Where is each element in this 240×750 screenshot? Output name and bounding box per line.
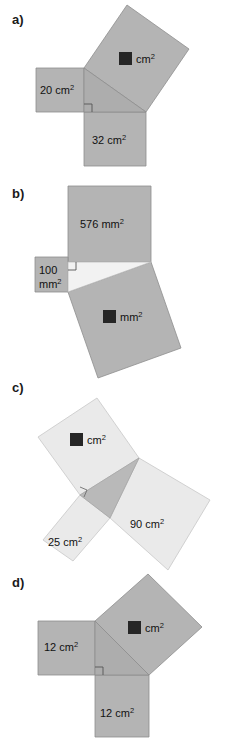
figure-b-unknown-box (103, 310, 116, 323)
figure-d: d) 12 cm2 12 cm2 cm2 (0, 565, 240, 750)
figure-b-diagram: 576 mm2 100 mm2 mm2 (0, 178, 240, 383)
figure-d-bottom-label: 12 cm2 (100, 706, 134, 719)
figure-d-diagram: 12 cm2 12 cm2 cm2 (0, 565, 240, 750)
figure-d-unknown-box (128, 621, 141, 634)
figure-b-top-label: 576 mm2 (80, 217, 124, 230)
figure-c-unknown-box (70, 433, 83, 446)
figure-c-right-label: 90 cm2 (130, 517, 164, 530)
figure-a: a) 20 cm2 32 cm2 cm2 (0, 0, 240, 180)
figure-b-left-label-line1: 100 (39, 264, 57, 276)
figure-a-bottom-label: 32 cm2 (92, 133, 126, 146)
worksheet-page: a) 20 cm2 32 cm2 cm2 b) (0, 0, 240, 750)
figure-d-left-label: 12 cm2 (44, 640, 78, 653)
figure-d-bottom-square (95, 675, 149, 737)
figure-c-diagram: cm2 25 cm2 90 cm2 (0, 372, 240, 572)
figure-a-left-label: 20 cm2 (40, 83, 74, 96)
figure-b: b) 576 mm2 100 mm2 mm2 (0, 178, 240, 378)
figure-a-diagram: 20 cm2 32 cm2 cm2 (0, 0, 240, 180)
figure-c: c) cm2 25 cm2 90 cm2 (0, 372, 240, 572)
figure-a-unknown-box (119, 52, 132, 65)
figure-c-lower-left-label: 25 cm2 (48, 535, 82, 548)
